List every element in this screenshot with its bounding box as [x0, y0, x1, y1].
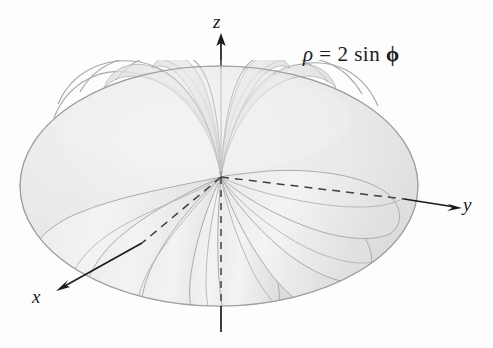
equation-coefficient: 2: [337, 42, 348, 66]
surface-figure-svg: [0, 0, 493, 348]
y-axis-label: y: [463, 195, 471, 214]
figure-container: z y x ρ = 2 sin ϕ: [0, 0, 493, 348]
equation-rho: ρ: [303, 42, 314, 66]
equation-function: sin: [354, 42, 380, 66]
x-axis-label: x: [32, 287, 40, 306]
z-axis-label: z: [213, 12, 220, 31]
equation-label: ρ = 2 sin ϕ: [303, 42, 400, 67]
equation-equals: =: [319, 42, 331, 66]
equation-phi: ϕ: [386, 42, 400, 66]
surface-body: [20, 53, 418, 346]
